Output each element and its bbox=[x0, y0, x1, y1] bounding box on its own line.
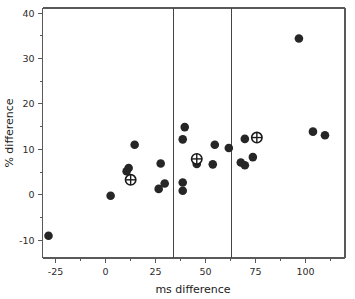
data-point bbox=[241, 135, 250, 144]
data-point bbox=[178, 186, 187, 195]
data-point-mean bbox=[125, 175, 135, 185]
scatter-plot-figure: -10010203040 -250255075100 ms difference… bbox=[0, 0, 355, 299]
data-point bbox=[225, 144, 234, 153]
data-point bbox=[321, 131, 330, 140]
data-point bbox=[210, 141, 219, 150]
y-axis-ticks bbox=[38, 14, 43, 241]
data-point-mean bbox=[252, 132, 262, 142]
y-tick-label: 20 bbox=[22, 98, 34, 109]
y-tick-label: 30 bbox=[22, 53, 34, 64]
data-point bbox=[124, 164, 133, 173]
data-point bbox=[156, 159, 165, 168]
y-axis-tick-labels: -10010203040 bbox=[19, 8, 35, 246]
y-axis-title: % difference bbox=[3, 98, 16, 167]
y-tick-label: 40 bbox=[22, 8, 34, 19]
data-point bbox=[130, 141, 139, 150]
x-tick-label: 25 bbox=[149, 266, 161, 277]
data-point-mean bbox=[192, 154, 202, 164]
x-tick-label: 75 bbox=[249, 266, 261, 277]
data-point bbox=[295, 34, 304, 43]
data-point bbox=[309, 127, 318, 136]
data-points-layer bbox=[44, 34, 329, 240]
data-point bbox=[106, 191, 115, 200]
data-point bbox=[241, 161, 250, 170]
data-point bbox=[178, 135, 187, 144]
x-axis-tick-labels: -250255075100 bbox=[48, 266, 315, 277]
x-tick-label: -25 bbox=[48, 266, 64, 277]
data-point bbox=[178, 178, 187, 187]
reference-lines bbox=[174, 8, 232, 258]
x-tick-label: 0 bbox=[102, 266, 108, 277]
data-point bbox=[44, 231, 53, 240]
y-tick-label: 0 bbox=[28, 189, 34, 200]
x-axis-ticks bbox=[56, 258, 331, 263]
y-tick-label: -10 bbox=[19, 235, 35, 246]
plot-frame bbox=[43, 8, 346, 258]
data-point bbox=[208, 160, 217, 169]
x-tick-label: 50 bbox=[199, 266, 211, 277]
data-point bbox=[249, 153, 258, 162]
y-tick-label: 10 bbox=[22, 144, 34, 155]
x-tick-label: 100 bbox=[296, 266, 314, 277]
data-point bbox=[160, 179, 169, 188]
data-point bbox=[180, 123, 189, 132]
x-axis-title: ms difference bbox=[155, 283, 230, 296]
plot-canvas: -10010203040 -250255075100 ms difference… bbox=[0, 0, 355, 299]
